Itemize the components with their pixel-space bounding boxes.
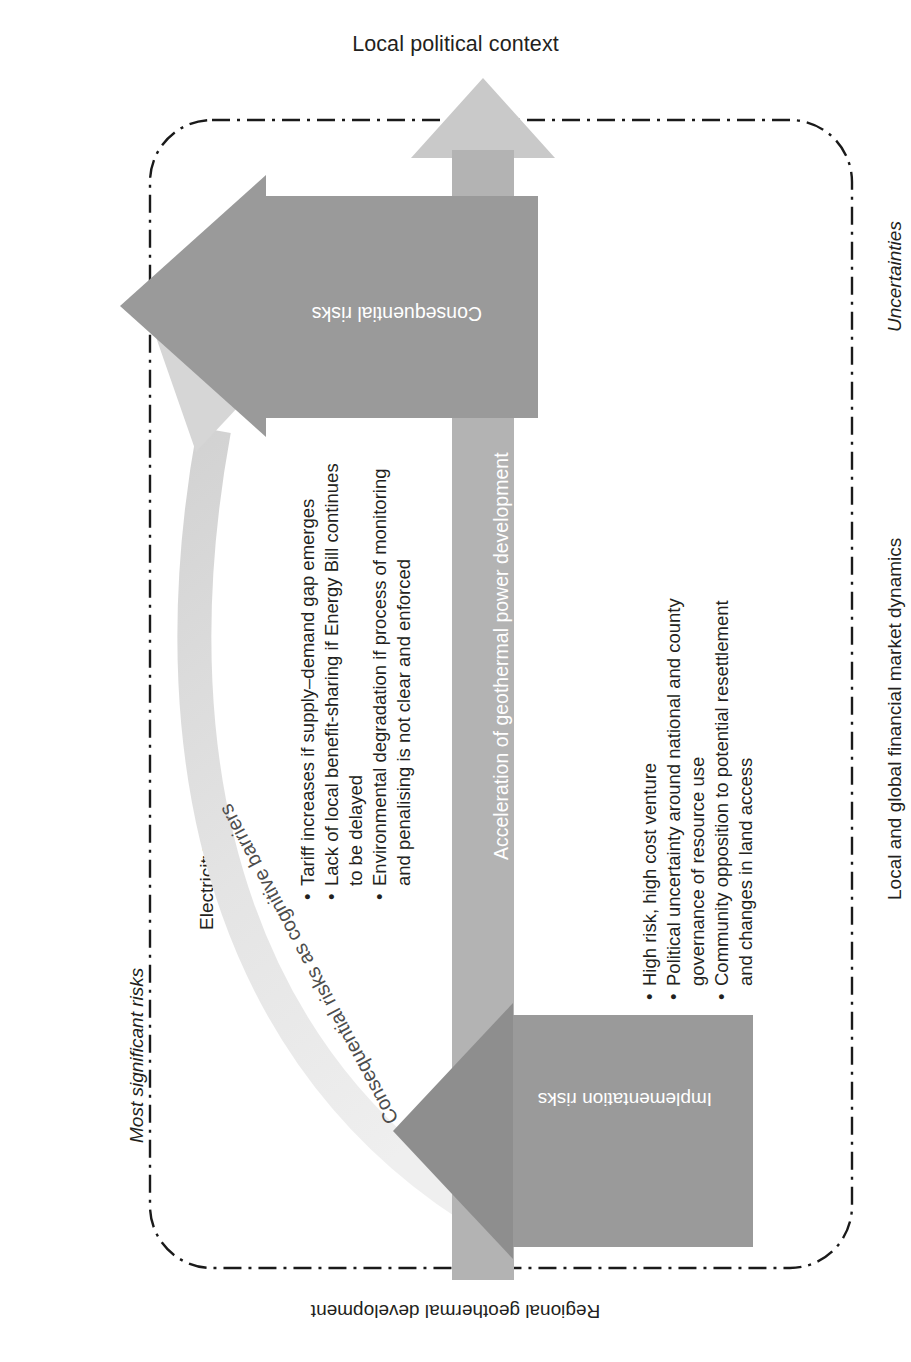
label-acceleration-geothermal: Acceleration of geothermal power develop… [490,452,513,860]
implementation-risk-item: •Community opposition to potential reset… [710,598,734,1000]
implementation-risk-item-text: High risk, high cost venture [639,763,660,986]
consequential-risk-item-text: Tariff increases if supply–demand gap em… [297,499,318,886]
bullet-icon: • [296,886,320,900]
implementation-risk-item-text: Political uncertainty around national an… [663,598,684,986]
implementation-risk-item: governance of resource use [686,598,710,1000]
implementation-risk-item: and changes in land access [734,598,758,1000]
implementation-risk-item-text: governance of resource use [687,757,708,986]
consequential-risks-list: •Tariff increases if supply–demand gap e… [296,463,416,900]
label-implementation-risks: Implementation risks [538,1088,712,1110]
acceleration-arrow-head [411,78,555,158]
consequential-risk-item: •Environmental degradation if process of… [368,463,392,900]
implementation-risk-item: •Political uncertainty around national a… [662,598,686,1000]
label-consequential-risks: Consequential risks [312,302,482,325]
consequential-risk-item-text: to be delayed [345,775,366,886]
consequential-risk-item: •Lack of local benefit-sharing if Energy… [320,463,344,900]
bullet-icon: • [710,986,734,1000]
implementation-risks-list: •High risk, high cost venture•Political … [638,598,758,1000]
consequential-risk-item-text: Environmental degradation if process of … [369,468,390,886]
consequential-risk-item-text: Lack of local benefit-sharing if Energy … [321,463,342,886]
implementation-risk-item: •High risk, high cost venture [638,598,662,1000]
consequential-risk-item: •Tariff increases if supply–demand gap e… [296,463,320,900]
implementation-risk-item-text: Community opposition to potential resett… [711,600,732,986]
bullet-icon: • [662,986,686,1000]
implementation-risk-item-text: and changes in land access [735,758,756,986]
consequential-risk-item: and penalising is not clear and enforced [392,463,416,900]
consequential-risks-arrow-head [120,175,266,437]
consequential-risk-item: to be delayed [344,463,368,900]
bullet-icon: • [368,886,392,900]
implementation-risks-arrow-head [393,1003,513,1259]
bullet-icon: • [638,986,662,1000]
consequential-risk-item-text: and penalising is not clear and enforced [393,559,414,886]
implementation-risks-arrow-shaft [508,1015,753,1247]
diagram-canvas: Local political context Regional geother… [0,0,911,1362]
bullet-icon: • [320,886,344,900]
